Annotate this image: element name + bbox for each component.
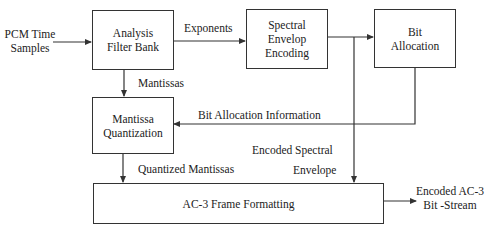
quantized-mantissas-label: Quantized Mantissas — [138, 162, 234, 176]
bit-allocation-info-label: Bit Allocation Information — [198, 108, 321, 122]
spectral-envelope-encoding-block: Spectral Envelop Encoding — [246, 9, 328, 69]
output-label-line1: Encoded AC-3 — [414, 184, 486, 198]
spectral-line1: Spectral — [265, 18, 309, 32]
exponents-label: Exponents — [184, 21, 233, 35]
bitalloc-line1: Bit — [391, 25, 440, 39]
spectral-line3: Encoding — [265, 46, 309, 60]
analysis-filter-bank-block: Analysis Filter Bank — [92, 10, 174, 70]
output-label-line2: Bit -Stream — [414, 198, 486, 212]
mantissas-label: Mantissas — [138, 76, 184, 90]
bitalloc-line2: Allocation — [391, 39, 440, 53]
mantissa-line2: Quantization — [103, 126, 162, 140]
analysis-line2: Filter Bank — [107, 40, 159, 54]
spectral-line2: Envelop — [265, 32, 309, 46]
input-label-line2: Samples — [2, 41, 58, 55]
input-label: PCM Time Samples — [2, 27, 58, 55]
envelope-label: Envelope — [293, 163, 336, 177]
frame-formatting-label: AC-3 Frame Formatting — [183, 197, 295, 211]
input-label-line1: PCM Time — [2, 27, 58, 41]
output-label: Encoded AC-3 Bit -Stream — [414, 184, 486, 212]
mantissa-line1: Mantissa — [103, 112, 162, 126]
encoded-spectral-label: Encoded Spectral — [252, 143, 333, 157]
mantissa-quantization-block: Mantissa Quantization — [92, 97, 174, 154]
bit-allocation-block: Bit Allocation — [374, 9, 456, 68]
frame-formatting-block: AC-3 Frame Formatting — [93, 183, 384, 224]
analysis-line1: Analysis — [107, 26, 159, 40]
